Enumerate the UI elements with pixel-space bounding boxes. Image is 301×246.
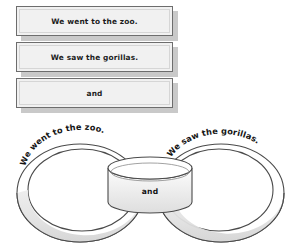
- paper-strip-2[interactable]: We saw the gorillas.: [16, 42, 173, 72]
- paper-strip-2-body[interactable]: We saw the gorillas.: [16, 42, 173, 72]
- paper-chain-worksheet: We went to the zoo. We saw the gorillas.…: [0, 0, 301, 246]
- paper-strips-group: We went to the zoo. We saw the gorillas.…: [0, 0, 301, 122]
- paper-strip-3[interactable]: and: [16, 78, 173, 108]
- paper-strip-3-label: and: [87, 89, 103, 98]
- chain-loop-center[interactable]: and: [108, 157, 192, 213]
- paper-chain-group: We went to the zoo. We saw the gorillas.: [0, 118, 301, 246]
- paper-strip-1-body[interactable]: We went to the zoo.: [16, 6, 173, 36]
- paper-strip-2-label: We saw the gorillas.: [51, 53, 138, 62]
- chain-loop-center-top-rim: [108, 157, 192, 179]
- paper-strip-3-body[interactable]: and: [16, 78, 173, 108]
- paper-strip-1[interactable]: We went to the zoo.: [16, 6, 173, 36]
- paper-strip-1-label: We went to the zoo.: [51, 17, 137, 26]
- chain-loop-center-label: and: [142, 187, 159, 196]
